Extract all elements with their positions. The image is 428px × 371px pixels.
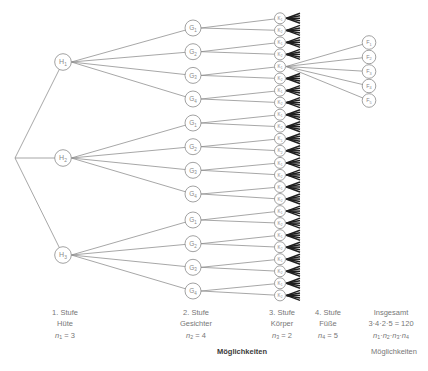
stage-caption-formula: n1·n2·n3·n4 bbox=[373, 331, 409, 341]
stage-caption-line: 1. Stufe bbox=[52, 308, 78, 317]
edge-gesicht-koerper bbox=[201, 194, 280, 199]
edge-root-hut bbox=[15, 158, 63, 255]
stage-caption-line: Körper bbox=[271, 319, 294, 328]
edge-gesicht-koerper bbox=[201, 91, 280, 99]
caption-moeglichkeiten-right: Möglichkeiten bbox=[371, 347, 417, 356]
edge-gesicht-koerper bbox=[201, 123, 280, 127]
edge-gesicht-koerper bbox=[201, 235, 280, 244]
edge-hut-gesicht bbox=[71, 158, 193, 170]
edge-hut-gesicht bbox=[71, 220, 193, 255]
edge-gesicht-koerper bbox=[201, 220, 280, 223]
figure-canvas: Möglichkeiten Möglichkeiten H1H2H3G1G2G3… bbox=[0, 0, 428, 371]
edge-gesicht-koerper bbox=[201, 52, 280, 55]
stage-caption-line: Insgesamt bbox=[374, 308, 410, 317]
stage-caption-line: Hüte bbox=[57, 319, 73, 328]
stage-caption-formula: n4 = 5 bbox=[318, 331, 338, 341]
caption-moeglichkeiten-bold: Möglichkeiten bbox=[217, 347, 267, 356]
edge-root-hut bbox=[15, 62, 63, 158]
edge-gesicht-koerper bbox=[201, 291, 280, 295]
stage-caption-formula: n2 = 4 bbox=[186, 331, 206, 341]
edge-koerper-fuss bbox=[286, 67, 369, 72]
edge-hut-gesicht bbox=[71, 255, 193, 267]
stage-caption-line: Gesichter bbox=[180, 319, 213, 328]
edge-hut-gesicht bbox=[71, 244, 193, 255]
edge-gesicht-koerper bbox=[201, 115, 280, 123]
edge-gesicht-koerper bbox=[201, 28, 280, 30]
edge-hut-gesicht bbox=[71, 62, 193, 99]
edge-gesicht-koerper bbox=[201, 147, 280, 151]
edge-hut-gesicht bbox=[71, 62, 193, 75]
stage-caption-line: Füße bbox=[319, 319, 337, 328]
stage-caption-formula: n1 = 3 bbox=[55, 331, 75, 341]
edge-gesicht-koerper bbox=[201, 42, 280, 51]
edge-gesicht-koerper bbox=[201, 99, 280, 103]
edge-hut-gesicht bbox=[71, 255, 193, 291]
stage-caption-formula: n3 = 2 bbox=[272, 331, 292, 341]
edge-gesicht-koerper bbox=[201, 259, 280, 267]
edge-gesicht-koerper bbox=[201, 67, 280, 76]
edge-hut-gesicht bbox=[71, 147, 193, 158]
edge-gesicht-koerper bbox=[201, 283, 280, 291]
edge-hut-gesicht bbox=[71, 123, 193, 158]
edge-gesicht-koerper bbox=[201, 163, 280, 170]
edge-gesicht-koerper bbox=[201, 187, 280, 194]
stage-caption-line: 3·4·2·5 = 120 bbox=[368, 319, 413, 328]
edge-gesicht-koerper bbox=[201, 170, 280, 175]
edge-gesicht-koerper bbox=[201, 211, 280, 220]
stage-caption-line: 2. Stufe bbox=[183, 308, 209, 317]
edge-gesicht-koerper bbox=[201, 267, 280, 271]
edge-gesicht-koerper bbox=[201, 18, 280, 28]
edge-gesicht-koerper bbox=[201, 75, 280, 78]
edge-gesicht-koerper bbox=[201, 139, 280, 147]
edge-gesicht-koerper bbox=[201, 244, 280, 248]
tree-diagram: Möglichkeiten Möglichkeiten H1H2H3G1G2G3… bbox=[0, 0, 428, 371]
edge-hut-gesicht bbox=[71, 158, 193, 194]
stage-caption-line: 4. Stufe bbox=[315, 308, 341, 317]
stage-caption-line: 3. Stufe bbox=[269, 308, 295, 317]
